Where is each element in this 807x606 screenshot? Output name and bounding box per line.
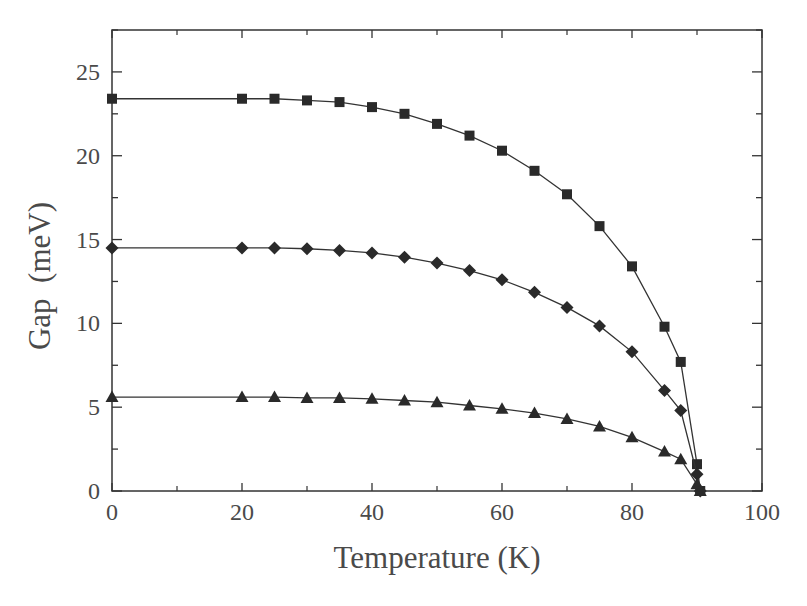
y-tick-label: 0 bbox=[88, 478, 100, 504]
square-marker bbox=[270, 94, 280, 104]
diamond-marker bbox=[528, 286, 541, 299]
y-tick-label: 25 bbox=[76, 59, 100, 85]
diamond-marker bbox=[236, 241, 249, 254]
square-marker bbox=[237, 94, 247, 104]
diamond-marker bbox=[301, 242, 314, 255]
square-marker bbox=[335, 97, 345, 107]
y-tick-label: 20 bbox=[76, 143, 100, 169]
x-tick-label: 100 bbox=[744, 499, 780, 525]
diamond-marker bbox=[398, 251, 411, 264]
diamond-marker bbox=[593, 319, 606, 332]
chart-container: 0204060801000510152025 Temperature (K) G… bbox=[0, 0, 807, 606]
triangle-marker bbox=[333, 391, 346, 403]
square-marker bbox=[107, 94, 117, 104]
square-marker bbox=[400, 109, 410, 119]
y-tick-label: 10 bbox=[76, 310, 100, 336]
diamond-marker bbox=[561, 301, 574, 314]
square-marker bbox=[432, 119, 442, 129]
square-marker bbox=[367, 102, 377, 112]
triangle-marker bbox=[106, 391, 119, 403]
triangle-marker bbox=[674, 453, 687, 465]
series-line-triangles bbox=[112, 397, 700, 491]
triangle-marker bbox=[658, 445, 671, 457]
square-marker bbox=[302, 95, 312, 105]
x-tick-label: 0 bbox=[106, 499, 118, 525]
y-axis-label: Gap (meV) bbox=[22, 176, 58, 376]
square-marker bbox=[530, 166, 540, 176]
triangle-marker bbox=[626, 431, 639, 443]
series-line-diamonds bbox=[112, 248, 700, 491]
x-axis-label: Temperature (K) bbox=[0, 540, 807, 576]
square-marker bbox=[562, 189, 572, 199]
diamond-marker bbox=[674, 404, 687, 417]
diamond-marker bbox=[366, 246, 379, 259]
x-tick-label: 20 bbox=[230, 499, 254, 525]
x-tick-label: 60 bbox=[490, 499, 514, 525]
diamond-marker bbox=[431, 257, 444, 270]
diamond-marker bbox=[463, 264, 476, 277]
diamond-marker bbox=[106, 241, 119, 254]
triangle-marker bbox=[236, 391, 249, 403]
square-marker bbox=[676, 357, 686, 367]
y-tick-label: 5 bbox=[88, 394, 100, 420]
square-marker bbox=[627, 261, 637, 271]
square-marker bbox=[595, 221, 605, 231]
series-line-squares bbox=[112, 99, 700, 491]
diamond-marker bbox=[496, 273, 509, 286]
x-tick-label: 40 bbox=[360, 499, 384, 525]
square-marker bbox=[497, 146, 507, 156]
diamond-marker bbox=[333, 244, 346, 257]
x-tick-label: 80 bbox=[620, 499, 644, 525]
diamond-marker bbox=[268, 241, 281, 254]
square-marker bbox=[465, 131, 475, 141]
square-marker bbox=[660, 322, 670, 332]
gap-vs-temperature-chart: 0204060801000510152025 bbox=[0, 0, 807, 606]
triangle-marker bbox=[268, 391, 281, 403]
y-tick-label: 15 bbox=[76, 227, 100, 253]
